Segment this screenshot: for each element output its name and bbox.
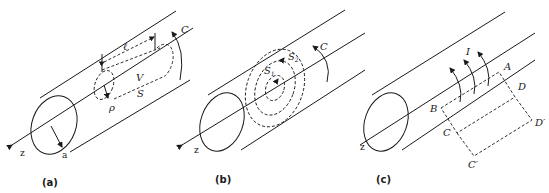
inner-cylinder-far bbox=[157, 44, 173, 76]
label-B: B bbox=[429, 103, 437, 114]
contour-arrow bbox=[172, 32, 182, 80]
cylinder-end-ellipse bbox=[23, 89, 85, 160]
surface-label: S bbox=[137, 88, 144, 99]
length-label: ℓ bbox=[123, 41, 127, 52]
cylinder-bottom-edge bbox=[241, 70, 365, 150]
caption-a: (a) bbox=[42, 177, 58, 188]
rho-arrow bbox=[104, 85, 108, 98]
label-Dp: D′ bbox=[534, 117, 546, 128]
cylinder-top-edge bbox=[208, 10, 345, 95]
label-A: A bbox=[503, 61, 511, 72]
cylinder-top-edge bbox=[40, 11, 176, 98]
current-label: I bbox=[465, 46, 471, 57]
cylinder-bottom-edge bbox=[70, 80, 190, 152]
z-label: z bbox=[20, 148, 25, 158]
rho-label: ρ bbox=[108, 102, 115, 113]
s1-label: S1 bbox=[264, 65, 275, 77]
label-C: C bbox=[443, 127, 451, 138]
cylinder-end-ellipse bbox=[192, 87, 252, 158]
radius-label: a bbox=[62, 150, 68, 160]
volume-label: V bbox=[136, 72, 145, 83]
cylinder-top-edge bbox=[372, 12, 505, 95]
panel-a: z a ρ ℓ V S C (a) bbox=[12, 11, 193, 188]
label-D: D bbox=[517, 81, 526, 92]
panel-b: z S1 S2 C (b) bbox=[182, 10, 365, 185]
caption-b: (b) bbox=[215, 174, 231, 185]
z-label: z bbox=[360, 142, 365, 152]
contour-label: C bbox=[320, 41, 328, 52]
loop-CCDD bbox=[457, 97, 532, 156]
caption-c: (c) bbox=[376, 174, 391, 185]
radius-arrow bbox=[51, 126, 62, 147]
z-axis bbox=[182, 33, 365, 145]
figure-canvas: z a ρ ℓ V S C (a) z S1 S2 bbox=[0, 0, 549, 193]
s1-arrow bbox=[276, 79, 278, 82]
contour-label: C bbox=[181, 24, 189, 35]
label-Cp: C′ bbox=[468, 159, 479, 170]
s2-label: S2 bbox=[288, 51, 299, 63]
z-axis bbox=[12, 28, 193, 145]
z-label: z bbox=[194, 145, 199, 155]
panel-c: z I A B C C′ D D′ (c) bbox=[356, 12, 546, 185]
